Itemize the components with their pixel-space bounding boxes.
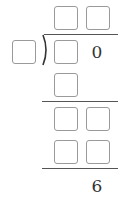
remainder-digit: 6 <box>90 176 104 196</box>
bring-down-tens-box[interactable] <box>54 107 78 131</box>
subtract-2-tens-box[interactable] <box>54 140 78 164</box>
quotient-tens-box[interactable] <box>54 6 78 30</box>
bring-down-ones-box[interactable] <box>86 107 110 131</box>
quotient-ones-box[interactable] <box>86 6 110 30</box>
division-bracket-icon <box>40 34 50 66</box>
dividend-ones-digit: 0 <box>90 42 104 62</box>
division-bar <box>44 34 118 35</box>
subtract-2-ones-box[interactable] <box>86 140 110 164</box>
divisor-box[interactable] <box>12 40 36 64</box>
subtraction-line-1 <box>42 101 118 102</box>
subtraction-line-2 <box>42 168 118 169</box>
subtract-1-box[interactable] <box>54 73 78 97</box>
dividend-tens-box[interactable] <box>54 40 78 64</box>
